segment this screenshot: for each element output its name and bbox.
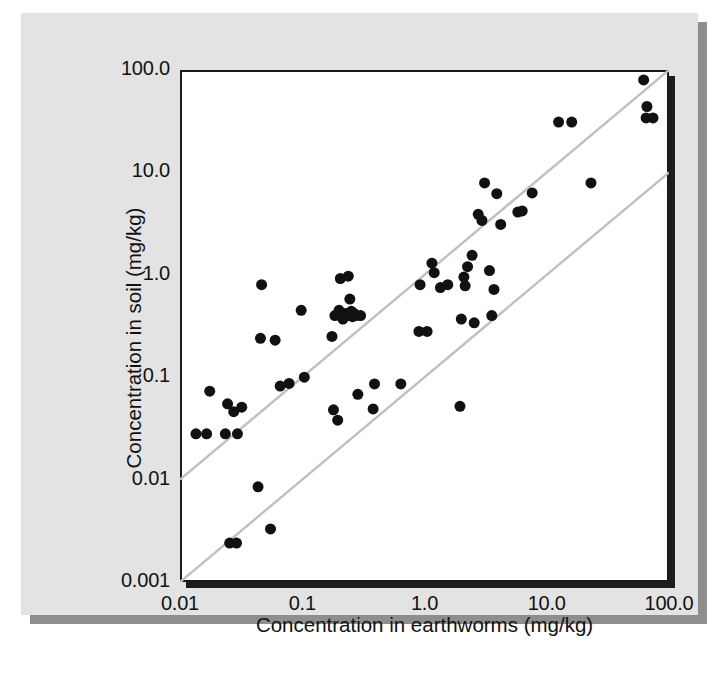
x-axis-tick-label: 100.0 [619, 592, 719, 615]
scatter-point [231, 538, 242, 549]
scatter-point [442, 279, 453, 290]
scatter-point [456, 314, 467, 325]
scatter-point [232, 428, 243, 439]
scatter-point [355, 310, 366, 321]
scatter-point [352, 389, 363, 400]
figure-plate: 0.010.11.010.0100.00.0010.010.11.010.010… [21, 13, 698, 615]
scatter-point [422, 326, 433, 337]
scatter-point [368, 403, 379, 414]
scatter-canvas [180, 70, 669, 582]
scatter-point [415, 279, 426, 290]
scatter-point [641, 101, 652, 112]
y-axis-tick-label: 10.0 [68, 159, 170, 182]
scatter-point [332, 415, 343, 426]
plot-area [180, 70, 669, 582]
scatter-point [265, 523, 276, 534]
y-axis-tick-label: 1.0 [68, 262, 170, 285]
scatter-point [220, 428, 231, 439]
scatter-point [296, 305, 307, 316]
scatter-point [343, 271, 354, 282]
y-axis-tick-label: 0.1 [68, 364, 170, 387]
scatter-point [486, 310, 497, 321]
scatter-point [553, 117, 564, 128]
y-axis-tick-label: 0.01 [68, 467, 170, 490]
y-axis-tick-label: 0.001 [68, 569, 170, 592]
scatter-point [395, 378, 406, 389]
scatter-point [488, 284, 499, 295]
scatter-point [201, 428, 212, 439]
scatter-point [284, 378, 295, 389]
scatter-point [638, 74, 649, 85]
scatter-point [460, 280, 471, 291]
scatter-point [236, 402, 247, 413]
scatter-point [426, 258, 437, 269]
scatter-point [479, 177, 490, 188]
scatter-point [328, 404, 339, 415]
scatter-point [253, 481, 264, 492]
scatter-point [299, 372, 310, 383]
reference-line-ratio-1-to-1 [180, 70, 669, 480]
scatter-point-group [190, 74, 658, 548]
scatter-point [566, 117, 577, 128]
scatter-point [326, 331, 337, 342]
scatter-point [495, 219, 506, 230]
x-axis-tick-label: 0.01 [130, 592, 230, 615]
figure-root: 0.010.11.010.0100.00.0010.010.11.010.010… [0, 0, 719, 682]
scatter-point [462, 261, 473, 272]
x-axis-tick-label: 1.0 [375, 592, 475, 615]
scatter-point [585, 177, 596, 188]
scatter-point [270, 335, 281, 346]
scatter-point [527, 187, 538, 198]
scatter-point [476, 215, 487, 226]
y-axis-title: Concentration in soil (mg/kg) [122, 82, 146, 594]
scatter-point [454, 401, 465, 412]
reference-line-ratio-1-to-10 [180, 172, 669, 582]
scatter-point [648, 112, 659, 123]
scatter-point [344, 294, 355, 305]
scatter-point [517, 205, 528, 216]
scatter-point [467, 250, 478, 261]
scatter-point [190, 428, 201, 439]
x-axis-tick-label: 10.0 [497, 592, 597, 615]
x-axis-tick-label: 0.1 [252, 592, 352, 615]
scatter-point [469, 317, 480, 328]
scatter-point [255, 333, 266, 344]
scatter-point [491, 188, 502, 199]
scatter-point [256, 279, 267, 290]
scatter-point [369, 378, 380, 389]
x-axis-title: Concentration in earthworms (mg/kg) [180, 613, 669, 637]
scatter-point [484, 265, 495, 276]
scatter-point [429, 267, 440, 278]
y-axis-tick-label: 100.0 [68, 57, 170, 80]
reference-line-group [180, 70, 669, 582]
scatter-point [204, 386, 215, 397]
